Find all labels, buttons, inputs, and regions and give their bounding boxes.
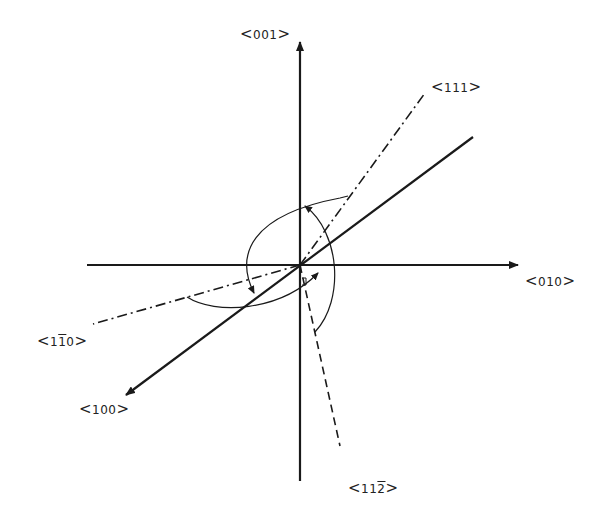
label-010: <010>: [525, 272, 576, 290]
rotation-arc-a: [247, 196, 348, 293]
label-11-2: <112>: [348, 479, 399, 497]
rotation-arc-b: [305, 206, 335, 332]
direction-diagram: [0, 0, 601, 525]
label-001: <001>: [240, 25, 291, 43]
label-100: <100>: [79, 400, 130, 418]
direction-111: [300, 93, 425, 265]
direction-1-10: [93, 265, 300, 324]
direction-11-2: [300, 265, 340, 446]
label-1-10: <110>: [37, 332, 88, 350]
label-111: <111>: [431, 78, 482, 96]
